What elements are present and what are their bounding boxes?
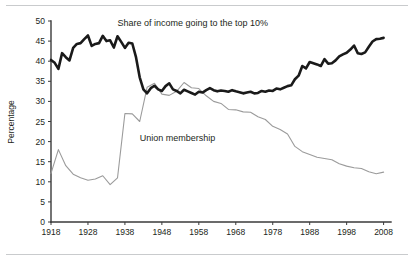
x-tick-label: 1948	[152, 227, 171, 237]
x-axis-group: 1918192819381948195819681978198819982008	[42, 222, 394, 237]
y-tick-label: 5	[40, 197, 45, 207]
x-tick-label: 1938	[115, 227, 134, 237]
series-annotation-label: Share of income going to the top 10%	[118, 18, 269, 28]
x-tick-label: 1998	[337, 227, 356, 237]
series-line-union-membership	[51, 83, 384, 185]
y-tick-label: 15	[36, 157, 46, 167]
x-tick-group: 1918192819381948195819681978198819982008	[42, 222, 394, 237]
x-tick-label: 1988	[300, 227, 319, 237]
x-tick-label: 1968	[226, 227, 245, 237]
y-tick-label: 40	[36, 56, 46, 66]
y-tick-label: 10	[36, 177, 46, 187]
y-tick-label: 0	[40, 217, 45, 227]
y-tick-label: 45	[36, 36, 46, 46]
y-tick-group: 05101520253035404550	[36, 16, 51, 227]
series-group	[51, 35, 384, 184]
x-tick-label: 1918	[42, 227, 61, 237]
y-axis-title: Percentage	[6, 100, 16, 144]
y-tick-label: 35	[36, 76, 46, 86]
chart-plot-area: 05101520253035404550 Percentage 19181928…	[0, 0, 414, 269]
chart-figure: 05101520253035404550 Percentage 19181928…	[0, 0, 414, 269]
x-tick-label: 1978	[263, 227, 282, 237]
x-tick-label: 1958	[189, 227, 208, 237]
y-tick-label: 25	[36, 117, 46, 127]
y-axis-group: 05101520253035404550 Percentage	[6, 16, 51, 227]
y-tick-label: 30	[36, 96, 46, 106]
y-tick-label: 20	[36, 137, 46, 147]
series-annotation-label: Union membership	[140, 133, 216, 143]
x-tick-label: 1928	[78, 227, 97, 237]
y-tick-label: 50	[36, 16, 46, 26]
series-line-top-income-share	[51, 35, 384, 94]
x-tick-label: 2008	[374, 227, 393, 237]
